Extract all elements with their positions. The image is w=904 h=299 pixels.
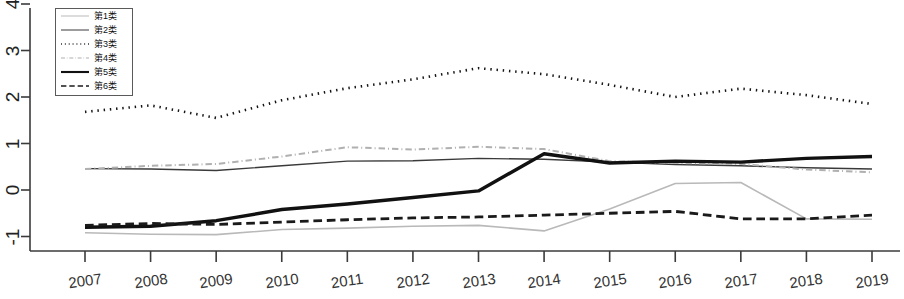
- legend-key-5: [60, 80, 90, 92]
- legend-label-5: 第6类: [94, 82, 117, 91]
- y-tick-label-2: 1: [2, 133, 24, 155]
- series-line-4: [85, 147, 872, 173]
- axis-lines: [30, 8, 900, 251]
- legend-item-1: 第2类: [56, 23, 132, 37]
- legend-key-2: [60, 38, 90, 50]
- legend-item-0: 第1类: [56, 9, 132, 23]
- legend-item-4: 第5类: [56, 65, 132, 79]
- y-tick-label-0: -1: [2, 226, 24, 248]
- legend-label-4: 第5类: [94, 68, 117, 77]
- legend-label-0: 第1类: [94, 12, 117, 21]
- legend-key-3: [60, 52, 90, 64]
- series-line-3: [85, 68, 872, 118]
- legend-item-2: 第3类: [56, 37, 132, 51]
- y-tick-label-4: 3: [2, 40, 24, 62]
- legend-item-5: 第6类: [56, 79, 132, 93]
- chart-plot-area: [0, 0, 904, 299]
- y-axis-ticks: [21, 4, 30, 237]
- y-tick-label-5: 4: [2, 0, 24, 15]
- data-series-group: [85, 68, 872, 234]
- chart-legend: 第1类 第2类 第3类 第4类 第5类 第6类: [55, 8, 133, 96]
- chart-figure: 第1类 第2类 第3类 第4类 第5类 第6类 -101234 20072008…: [0, 0, 904, 299]
- legend-item-3: 第4类: [56, 51, 132, 65]
- legend-key-0: [60, 10, 90, 22]
- legend-label-2: 第3类: [94, 40, 117, 49]
- legend-key-1: [60, 24, 90, 36]
- y-tick-label-3: 2: [2, 86, 24, 108]
- x-axis-ticks: [85, 251, 872, 262]
- legend-label-1: 第2类: [94, 26, 117, 35]
- legend-key-4: [60, 66, 90, 78]
- legend-label-3: 第4类: [94, 54, 117, 63]
- y-tick-label-1: 0: [2, 179, 24, 201]
